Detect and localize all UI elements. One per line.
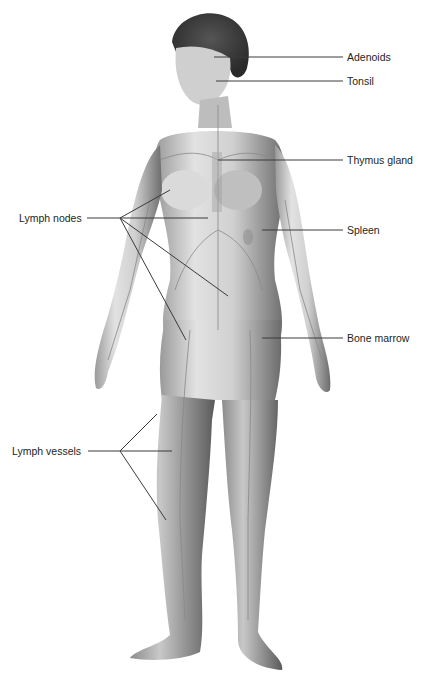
label-bone-marrow: Bone marrow [347,332,409,344]
label-lymph-nodes: Lymph nodes [19,212,82,224]
label-lymph-vessels: Lymph vessels [12,445,81,457]
label-tonsil: Tonsil [347,75,374,87]
label-thymus-gland: Thymus gland [347,154,413,166]
label-spleen: Spleen [347,224,380,236]
label-adenoids: Adenoids [347,51,391,63]
body-silhouette [95,13,331,670]
